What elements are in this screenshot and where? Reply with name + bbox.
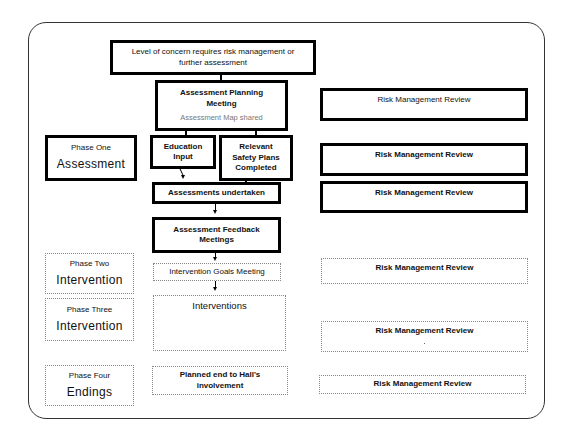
intervention-goals-meeting-box: Intervention Goals Meeting [153, 263, 281, 281]
phase-one-name: Assessment [57, 157, 125, 173]
concern-level-text: Level of concern requires risk managemen… [113, 47, 313, 68]
risk-review-text: Risk Management Review [375, 188, 473, 198]
phase-three-box: Phase Three Intervention [45, 298, 134, 341]
phase-two-box: Phase Two Intervention [45, 253, 134, 294]
phase-four-box: Phase Four Endings [45, 365, 134, 406]
planned-end-text: Planned end to Hall's involvement [153, 370, 287, 391]
phase-three-label: Phase Three [67, 305, 113, 315]
assessments-undertaken-box: Assessments undertaken [152, 182, 281, 204]
phase-four-label: Phase Four [69, 371, 110, 381]
risk-review-text: Risk Management Review [374, 379, 472, 389]
planning-meeting-title: Assessment Planning Meeting [158, 88, 285, 109]
concern-level-box: Level of concern requires risk managemen… [110, 40, 316, 75]
education-input-text: Education Input [153, 142, 213, 163]
arrow-icon [181, 175, 185, 179]
risk-review-box-4: Risk Management Review [321, 258, 528, 284]
phase-one-label: Phase One [71, 143, 111, 153]
phase-one-box: Phase One Assessment [45, 135, 137, 181]
risk-review-box-6: Risk Management Review [319, 375, 526, 394]
interventions-box: Interventions [153, 295, 286, 351]
risk-review-text: Risk Management Review [375, 150, 473, 160]
arrow-icon [213, 287, 217, 291]
feedback-meetings-text: Assessment Feedback Meetings [155, 225, 278, 246]
arrow-icon [213, 257, 217, 261]
assessment-planning-meeting-box: Assessment Planning Meeting Assessment M… [155, 80, 288, 131]
risk-review-text: Risk Management Review [376, 326, 474, 336]
phase-two-name: Intervention [56, 273, 122, 289]
assessments-undertaken-text: Assessments undertaken [168, 188, 265, 198]
phase-two-label: Phase Two [70, 259, 109, 269]
risk-review-box-5: Risk Management Review [321, 321, 528, 352]
goals-meeting-text: Intervention Goals Meeting [169, 267, 265, 277]
stray-dot [424, 343, 425, 344]
education-input-box: Education Input [150, 135, 216, 169]
phase-four-name: Endings [67, 385, 112, 401]
risk-review-box-2: Risk Management Review [320, 143, 528, 176]
planned-end-box: Planned end to Hall's involvement [152, 366, 288, 395]
risk-review-text: Risk Management Review [378, 95, 471, 105]
planning-meeting-subtitle: Assessment Map shared [180, 113, 263, 123]
feedback-meetings-box: Assessment Feedback Meetings [152, 217, 281, 253]
interventions-text: Interventions [192, 300, 246, 312]
safety-plans-box: Relevant Safety Plans Completed [219, 135, 293, 181]
arrow-icon [213, 210, 217, 214]
risk-review-text: Risk Management Review [376, 263, 474, 273]
risk-review-box-3: Risk Management Review [320, 181, 528, 213]
risk-review-box-1: Risk Management Review [320, 88, 528, 121]
phase-three-name: Intervention [56, 319, 122, 335]
safety-plans-text: Relevant Safety Plans Completed [222, 142, 290, 173]
